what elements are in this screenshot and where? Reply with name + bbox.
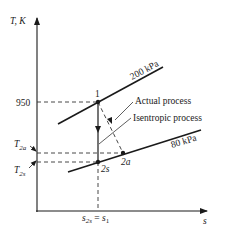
state-1-point (96, 100, 100, 104)
t2a-pointer (30, 146, 36, 151)
x-axis-label: s (203, 216, 207, 226)
actual-leader (115, 102, 133, 120)
tick-t2s: T2s (14, 165, 26, 178)
actual-arrow-icon (107, 117, 112, 124)
state-2a-point (121, 151, 125, 155)
svg-text:s2s = s1: s2s = s1 (82, 213, 110, 225)
ts-diagram: T, K s 200 kPa 80 kPa 1 2s 2a Actual pro… (0, 0, 227, 238)
tick-s2s-eq-s1: s2s = s1 (82, 213, 110, 225)
y-axis-label: T, K (10, 16, 26, 26)
state-2s-label: 2s (101, 164, 110, 174)
state-1-label: 1 (95, 89, 100, 99)
tick-950: 950 (16, 98, 31, 108)
tick-t2a: T2a (14, 139, 27, 152)
state-2s-point (96, 160, 100, 164)
svg-text:T2a: T2a (14, 139, 27, 152)
isobar-80kpa-label: 80 kPa (170, 132, 199, 149)
t2s-pointer (29, 161, 36, 168)
actual-process-label: Actual process (135, 96, 191, 106)
isentropic-arrow-icon (95, 126, 101, 133)
svg-text:T2s: T2s (14, 165, 26, 178)
state-2a-label: 2a (121, 157, 131, 167)
isentropic-process-label: Isentropic process (133, 113, 202, 123)
isentropic-leader (99, 118, 131, 144)
